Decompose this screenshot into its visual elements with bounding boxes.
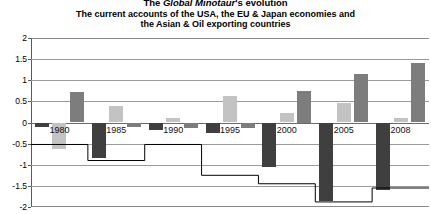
x-axis-tick-label: 1990 bbox=[163, 125, 183, 135]
x-axis-tick-label: 1980 bbox=[49, 125, 69, 135]
bar-japan-1990 bbox=[184, 123, 198, 128]
bar-japan-2005 bbox=[354, 74, 368, 123]
chart-subtitle-line-1: The current accounts of the USA, the EU … bbox=[0, 9, 431, 20]
gridline bbox=[31, 186, 429, 187]
gridline bbox=[31, 144, 429, 145]
title-suffix: 's evolution bbox=[235, 0, 287, 8]
chart-title-line-1: The Global Minotaur's evolution bbox=[0, 0, 431, 9]
bar-japan-1980 bbox=[70, 92, 84, 122]
y-axis-tick-label: 1 bbox=[0, 75, 27, 85]
y-axis-tick-mark bbox=[28, 101, 31, 102]
bar-usa-2005 bbox=[319, 123, 333, 201]
chart-subtitle-line-2: the Asian & Oil exporting countries bbox=[0, 19, 431, 30]
bar-japan-1985 bbox=[127, 123, 141, 127]
chart-container: The Global Minotaur's evolution The curr… bbox=[0, 0, 431, 214]
bar-eu-1990 bbox=[166, 118, 180, 122]
bar-eu-2000 bbox=[280, 113, 294, 122]
bar-eu-2008 bbox=[394, 118, 408, 122]
y-axis-tick-label: 0 bbox=[0, 118, 27, 128]
bar-eu-2005 bbox=[337, 103, 351, 122]
bar-usa-1980 bbox=[35, 123, 49, 127]
y-axis-tick-mark bbox=[28, 80, 31, 81]
y-axis-tick-label: -1.5 bbox=[0, 181, 27, 191]
y-axis-tick-label: -1 bbox=[0, 160, 27, 170]
y-axis-tick-mark bbox=[28, 186, 31, 187]
y-axis-tick-label: 1.5 bbox=[0, 54, 27, 64]
y-axis-tick-mark bbox=[28, 207, 31, 208]
gridline bbox=[31, 165, 429, 166]
y-axis-tick-mark bbox=[28, 144, 31, 145]
x-axis-tick-label: 2005 bbox=[334, 125, 354, 135]
plot-area: 21.510.50-0.5-1-1.5-2 198019851990199520… bbox=[31, 38, 429, 207]
title-prefix: The bbox=[143, 0, 163, 8]
x-axis-tick-label: 2008 bbox=[391, 125, 411, 135]
bar-japan-1995 bbox=[241, 123, 255, 128]
x-axis-tick-label: 2000 bbox=[277, 125, 297, 135]
bar-eu-1995 bbox=[223, 96, 237, 122]
y-axis-tick-label: 0.5 bbox=[0, 96, 27, 106]
y-axis-tick-mark bbox=[28, 38, 31, 39]
y-axis-tick-mark bbox=[28, 123, 31, 124]
bar-usa-2000 bbox=[262, 123, 276, 167]
bar-usa-1990 bbox=[149, 123, 163, 131]
gridline bbox=[31, 59, 429, 60]
bar-japan-2008 bbox=[411, 63, 425, 123]
gridline bbox=[31, 80, 429, 81]
y-axis-tick-label: 2 bbox=[0, 33, 27, 43]
y-axis-tick-label: -0.5 bbox=[0, 139, 27, 149]
title-italic-term: Global Minotaur bbox=[163, 0, 235, 8]
y-axis-tick-mark bbox=[28, 59, 31, 60]
x-axis-tick-label: 1995 bbox=[220, 125, 240, 135]
y-axis-tick-label: -2 bbox=[0, 202, 27, 212]
bar-japan-2000 bbox=[297, 91, 311, 123]
bar-eu-1985 bbox=[109, 106, 123, 122]
chart-title-block: The Global Minotaur's evolution The curr… bbox=[0, 0, 431, 30]
bar-usa-1985 bbox=[92, 123, 106, 159]
bar-usa-2008 bbox=[376, 123, 390, 191]
bar-usa-1995 bbox=[206, 123, 220, 134]
x-axis-tick-label: 1985 bbox=[106, 125, 126, 135]
y-axis-tick-mark bbox=[28, 165, 31, 166]
gridline bbox=[31, 123, 429, 124]
